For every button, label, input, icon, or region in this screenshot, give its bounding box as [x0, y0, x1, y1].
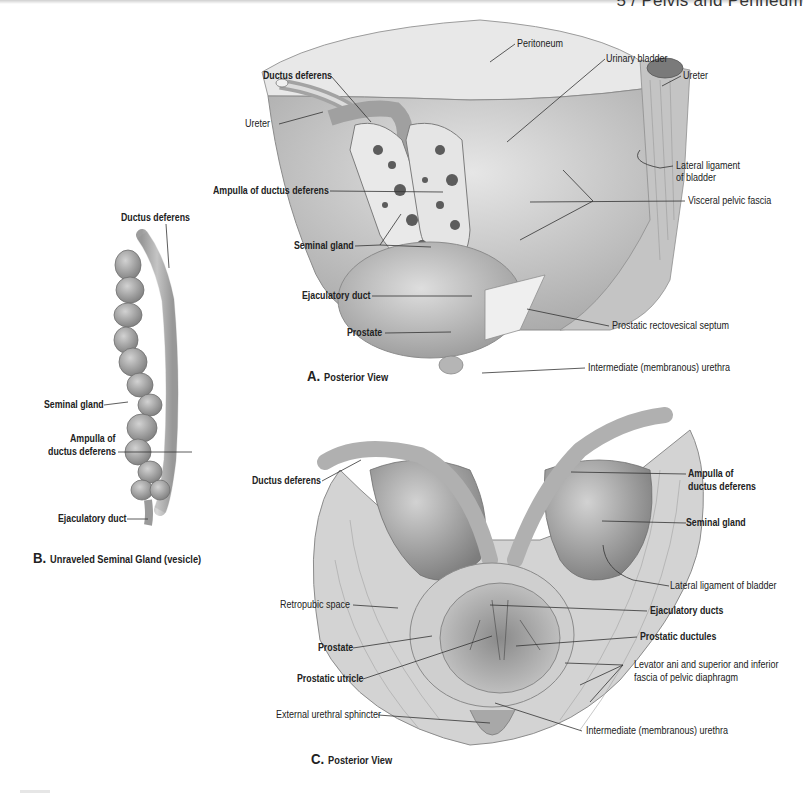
label-prostatic-rectovesical-septum: Prostatic rectovesical septum — [612, 320, 729, 332]
label-prostatic-ductules: Prostatic ductules — [640, 631, 716, 643]
label-intermediate-urethra-c: Intermediate (membranous) urethra — [586, 725, 728, 737]
label-levator-ani-1: Levator ani and superior and inferior — [634, 659, 779, 671]
figure-c-art — [313, 415, 703, 745]
label-ampulla-b-1: Ampulla of — [70, 433, 115, 445]
label-peritoneum: Peritoneum — [517, 38, 563, 50]
label-ductus-deferens-c: Ductus deferens — [252, 475, 321, 487]
label-ureter-left: Ureter — [245, 118, 270, 130]
caption-figure-c: C. Posterior View — [311, 750, 392, 768]
label-ampulla-b-2: ductus deferens — [48, 446, 116, 458]
label-ejaculatory-ducts: Ejaculatory ducts — [650, 605, 723, 617]
label-external-urethral-sphincter: External urethral sphincter — [276, 709, 381, 721]
label-lateral-ligament-1: Lateral ligament — [676, 160, 740, 172]
label-ductus-deferens-b: Ductus deferens — [121, 212, 190, 224]
caption-c-letter: C. — [311, 750, 324, 767]
label-intermediate-urethra-a: Intermediate (membranous) urethra — [588, 362, 730, 374]
caption-a-text: Posterior View — [324, 371, 388, 383]
label-seminal-gland-a: Seminal gland — [294, 240, 354, 252]
label-ampulla-c-2: ductus deferens — [688, 481, 756, 493]
caption-figure-a: A. Posterior View — [307, 367, 388, 385]
label-prostate-a: Prostate — [347, 327, 382, 339]
figure-b-art — [114, 235, 172, 525]
label-ductus-deferens-a: Ductus deferens — [263, 70, 332, 82]
caption-b-text: Unraveled Seminal Gland (vesicle) — [50, 553, 201, 565]
label-lateral-ligament-2: of bladder — [676, 172, 716, 184]
caption-c-text: Posterior View — [328, 754, 392, 766]
label-urinary-bladder: Urinary bladder — [606, 53, 668, 65]
caption-a-letter: A. — [307, 367, 320, 384]
caption-b-letter: B. — [33, 549, 46, 566]
label-ejaculatory-duct-a: Ejaculatory duct — [302, 290, 370, 302]
label-retropubic-space: Retropubic space — [280, 599, 350, 611]
label-seminal-gland-c: Seminal gland — [686, 517, 746, 529]
label-prostatic-utricle: Prostatic utricle — [297, 673, 364, 685]
caption-figure-b: B. Unraveled Seminal Gland (vesicle) — [33, 549, 201, 567]
label-visceral-pelvic-fascia: Visceral pelvic fascia — [688, 195, 771, 207]
label-ampulla-a: Ampulla of ductus deferens — [213, 185, 329, 197]
label-ejaculatory-duct-b: Ejaculatory duct — [58, 513, 126, 525]
label-seminal-gland-b: Seminal gland — [44, 399, 104, 411]
label-ampulla-c-1: Ampulla of — [688, 468, 733, 480]
label-ureter-right: Ureter — [683, 70, 708, 82]
label-levator-ani-2: fascia of pelvic diaphragm — [634, 672, 738, 684]
label-prostate-c: Prostate — [318, 642, 353, 654]
label-lateral-ligament-c: Lateral ligament of bladder — [670, 580, 777, 592]
